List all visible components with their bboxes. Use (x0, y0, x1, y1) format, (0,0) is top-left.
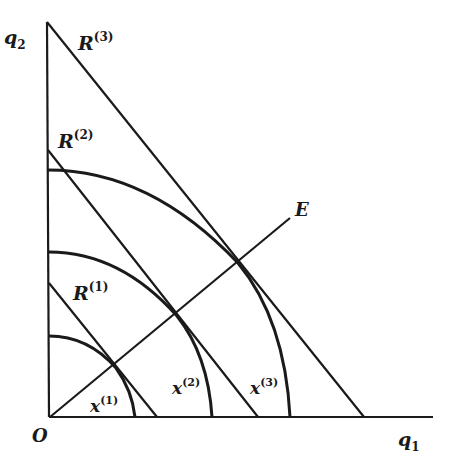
indifference-curve-3-label: x(3) (249, 376, 278, 398)
indifference-curve-2-label: x(2) (171, 376, 200, 398)
indifference-curve-1-label: x(1) (89, 394, 118, 416)
budget-line-3-label: R(3) (77, 30, 114, 54)
budget-line-1-label: R(1) (72, 280, 109, 304)
y-axis (47, 22, 49, 417)
budget-line-3 (47, 22, 364, 417)
origin-label: O (32, 425, 48, 446)
consumer-choice-diagram: q2 q1 O R(3) R(2) R(1) x(1) x(2) x(3) E (0, 0, 457, 455)
y-axis-label: q2 (4, 26, 26, 52)
budget-line-2-label: R(2) (57, 128, 94, 152)
expansion-path-label: E (294, 199, 309, 220)
x-axis-label: q1 (398, 428, 420, 454)
